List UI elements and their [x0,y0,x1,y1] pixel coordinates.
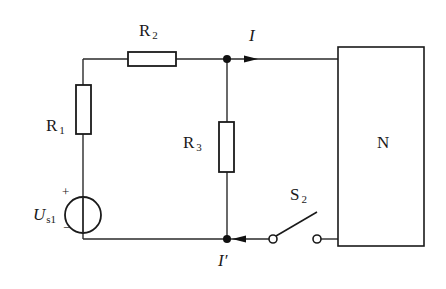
r2-label: R2 [139,21,158,41]
current-label-i: I [248,26,256,45]
circuit-diagram: R1 R2 R3 + − Us1 I I′ S2 N [0,0,446,289]
plus-sign: + [62,184,69,199]
switch-blade [276,212,317,236]
arrow-right-icon [244,56,258,63]
source-label: Us1 [33,205,56,225]
current-arrow-i-prime: I′ [217,236,246,271]
resistor-r3: R3 [183,122,234,172]
wires [83,59,338,239]
resistor-r2: R2 [128,21,176,66]
switch-terminal-right [313,235,321,243]
r1-label: R1 [46,116,65,136]
current-arrow-i: I [244,26,258,63]
junction-node-bottom [223,235,231,243]
switch-label: S2 [290,185,307,205]
junction-node-top [223,55,231,63]
network-label: N [377,133,389,152]
switch-s2: S2 [269,185,321,243]
network-n: N [338,47,424,246]
r3-label: R3 [183,133,202,153]
switch-terminal-left [269,235,277,243]
current-label-i-prime: I′ [217,251,228,270]
voltage-source-us1: + − Us1 [33,184,101,235]
arrow-left-icon [232,236,246,243]
minus-sign: − [63,220,70,235]
resistor-r1: R1 [46,85,91,136]
